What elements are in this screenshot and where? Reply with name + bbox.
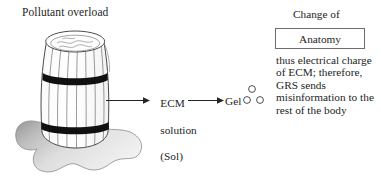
ecm-line-2: solution — [160, 124, 196, 136]
gel-label: Gel — [225, 95, 241, 108]
diagram-canvas: Pollutant overload — [0, 0, 381, 194]
right-arrow-icon-one — [106, 95, 150, 106]
barrel-body — [41, 31, 110, 148]
ecm-line-3: (Sol) — [160, 150, 183, 162]
change-of-caption: Change of — [293, 8, 340, 21]
gel-particle-icon-group — [243, 84, 271, 108]
consequence-paragraph: thus electrical charge of ECM; therefore… — [276, 54, 380, 116]
right-arrow-icon-two — [188, 95, 224, 106]
anatomy-box: Anatomy — [275, 28, 365, 49]
ecm-line-1: ECM — [160, 97, 184, 109]
anatomy-box-label: Anatomy — [276, 29, 364, 48]
